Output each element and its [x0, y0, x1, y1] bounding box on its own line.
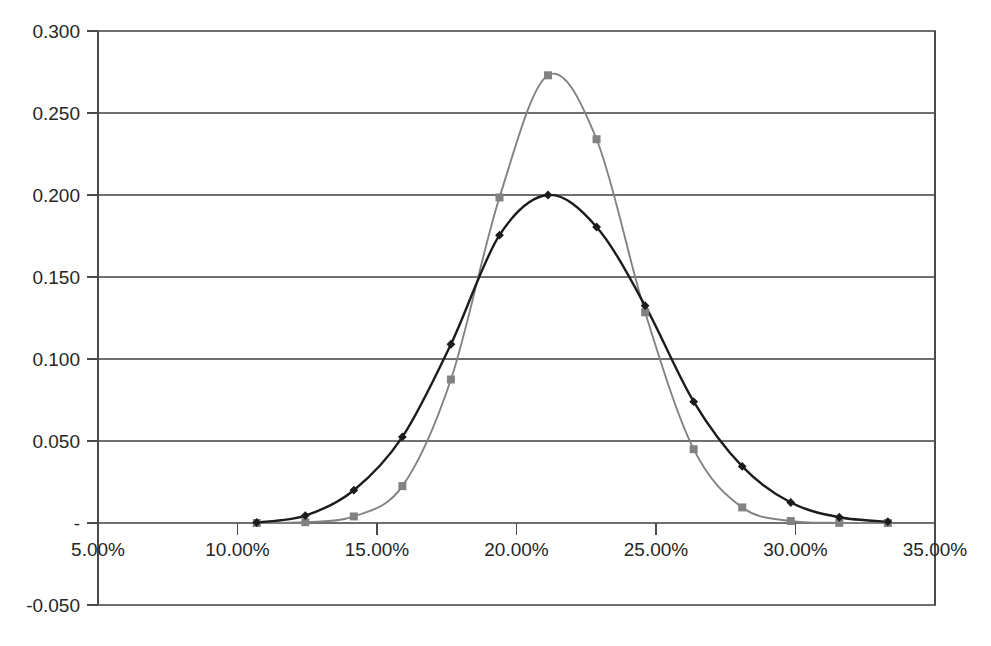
y-tick-label: 0.050	[32, 431, 80, 452]
marker-square	[398, 482, 406, 490]
marker-square	[593, 135, 601, 143]
marker-diamond	[786, 498, 795, 507]
x-axis-tick-labels: 5.00%10.00%15.00%20.00%25.00%30.00%35.00…	[71, 539, 967, 560]
marker-square	[544, 71, 552, 79]
marker-square	[690, 445, 698, 453]
plot-area-border	[98, 31, 935, 605]
data-point-markers	[252, 71, 892, 527]
y-axis-tick-labels: 0.3000.2500.2000.1500.1000.050--0.050	[26, 21, 80, 616]
marker-square	[787, 517, 795, 525]
data-series	[257, 74, 888, 523]
marker-diamond	[544, 191, 553, 200]
y-tick-label: 0.250	[32, 103, 80, 124]
y-tick-label: -0.050	[26, 595, 80, 616]
y-tick-label: 0.200	[32, 185, 80, 206]
marker-square	[447, 376, 455, 384]
x-tick-label: 15.00%	[345, 539, 410, 560]
y-tick-label: 0.300	[32, 21, 80, 42]
x-tick-label: 5.00%	[71, 539, 125, 560]
x-tick-label: 30.00%	[763, 539, 828, 560]
x-tick-label: 35.00%	[903, 539, 968, 560]
marker-square	[738, 503, 746, 511]
marker-square	[495, 193, 503, 201]
y-tick-label: 0.150	[32, 267, 80, 288]
y-tick-label: 0.100	[32, 349, 80, 370]
chart-container: 0.3000.2500.2000.1500.1000.050--0.050 5.…	[0, 0, 991, 646]
x-tick-label: 20.00%	[484, 539, 549, 560]
marker-diamond	[447, 340, 456, 349]
distribution-line-chart: 0.3000.2500.2000.1500.1000.050--0.050 5.…	[0, 0, 991, 646]
gridlines	[98, 31, 935, 523]
axis-ticks	[87, 31, 935, 605]
y-tick-label: -	[74, 513, 80, 534]
marker-square	[350, 512, 358, 520]
plot-frame	[98, 31, 935, 605]
x-tick-label: 10.00%	[205, 539, 270, 560]
series-line-series-2	[257, 74, 888, 523]
x-tick-label: 25.00%	[624, 539, 689, 560]
